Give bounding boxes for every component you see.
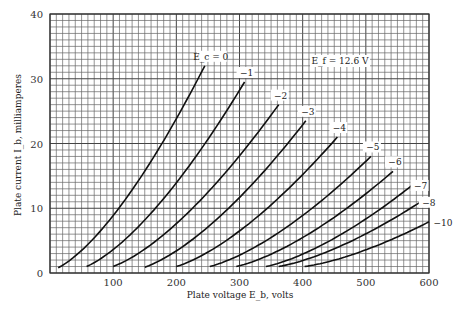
curve-3 [145,121,306,267]
svg-text:30: 30 [30,74,43,85]
svg-text:300: 300 [230,277,249,288]
svg-text:200: 200 [167,277,186,288]
x-axis-label: Plate voltage E_b, volts [187,290,294,301]
curve-2 [113,105,279,267]
curve-6 [236,171,393,266]
curve-label: E_c = 0 [193,52,228,63]
plate-characteristics-chart: E_c = 0−1−2−3−4−5−6−7−8−10 1002003004005… [0,0,460,314]
curve-labels: E_c = 0−1−2−3−4−5−6−7−8−10 [193,51,453,228]
svg-text:20: 20 [30,139,43,150]
svg-text:10: 10 [30,203,43,214]
svg-text:400: 400 [293,277,312,288]
filament-voltage-annotation: E_f = 12.6 V [311,56,369,67]
svg-text:100: 100 [104,277,123,288]
curve-label: −5 [366,142,380,152]
svg-text:0: 0 [37,268,43,279]
y-axis-label: Plate current I_b, milliamperes [13,74,24,216]
curve-label: −7 [414,181,428,191]
curve-label: −6 [388,157,402,167]
curve-label: −4 [333,123,347,133]
curve-label: −10 [434,218,453,228]
curve-label: −1 [240,68,253,78]
svg-text:40: 40 [30,9,43,20]
curves [58,66,429,268]
svg-text:600: 600 [419,277,438,288]
curve-label: −8 [422,198,436,208]
svg-text:500: 500 [356,277,375,288]
curve-label: −3 [301,107,315,117]
curve-label: −2 [274,91,287,101]
